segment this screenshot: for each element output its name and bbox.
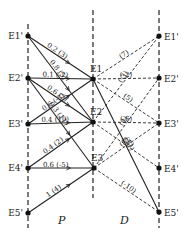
node-dot [25, 210, 30, 215]
node-middle-3: E3 [91, 153, 104, 171]
node-label: E1' [164, 32, 179, 42]
node-label: E3' [164, 119, 179, 129]
node-dot [91, 165, 96, 170]
edge-label: (-2) [120, 71, 133, 79]
node-dot [25, 33, 30, 38]
node-left-3: E3' [8, 119, 30, 129]
node-label: E5' [164, 208, 179, 218]
edge-label: (-6) [120, 115, 133, 123]
edge-label: (7) [118, 48, 131, 60]
edge-label: (5) [122, 92, 135, 104]
node-dot [156, 120, 161, 125]
edge-label: 0.6 (-5) [43, 161, 69, 169]
node-right-1: E1' [156, 32, 178, 42]
p-edge-L3-M2: 0.4 (10) [28, 115, 93, 124]
node-dot [25, 75, 30, 80]
node-label: E1 [90, 64, 102, 74]
node-label: E4' [164, 164, 179, 174]
edge-label: 0.4 (10) [41, 115, 69, 124]
node-left-5: E5' [8, 208, 30, 218]
node-right-3: E3' [156, 119, 178, 129]
node-left-1: E1' [8, 31, 30, 41]
node-left-2: E2' [8, 73, 30, 83]
node-label: E1' [8, 31, 23, 41]
node-dot [156, 209, 161, 214]
node-label: E2 [90, 107, 102, 117]
node-label: E3 [91, 153, 104, 163]
node-dot [156, 75, 161, 80]
node-label: E2' [8, 73, 23, 83]
edge-label: (-10) [119, 179, 138, 195]
p-edge-L5-M3: 1 (4) [28, 168, 94, 213]
d-edge-M3-R5: (-10) [94, 168, 159, 212]
diagram-svg: 0.2 (3)0.8 (5)0.1 (-2)0.6 (2)0.3 (11)0.6… [0, 0, 184, 244]
node-right-4: E4' [156, 164, 178, 174]
edge-label: 0.1 (-2) [42, 71, 68, 79]
node-left-4: E4' [8, 163, 30, 173]
node-dot [25, 121, 30, 126]
node-dot [90, 76, 95, 81]
edge-label: 1 (4) [45, 183, 63, 199]
column-label-d: D [119, 214, 129, 227]
node-dot [25, 165, 30, 170]
node-dot [156, 33, 161, 38]
node-right-5: E5' [156, 208, 178, 218]
node-dot [156, 165, 161, 170]
bipartite-flow-diagram: 0.2 (3)0.8 (5)0.1 (-2)0.6 (2)0.3 (11)0.6… [0, 0, 184, 244]
edge-label: 0.4 (2) [41, 136, 65, 156]
node-label: E2' [164, 74, 179, 84]
node-label: E5' [8, 208, 23, 218]
column-label-p: P [57, 214, 66, 227]
node-label: E4' [8, 163, 23, 173]
node-dot [90, 119, 95, 124]
p-edge-L4-M3: 0.6 (-5) [28, 161, 94, 169]
node-right-2: E2' [156, 74, 178, 84]
node-label: E3' [8, 119, 23, 129]
edge-label: 0.2 (3) [45, 41, 69, 61]
